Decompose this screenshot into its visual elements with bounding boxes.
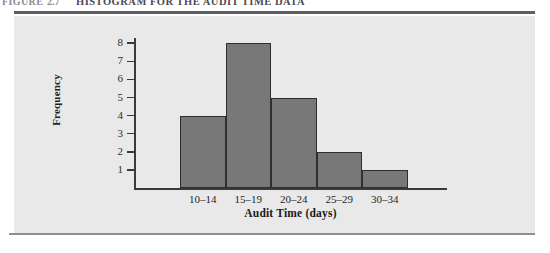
histogram-bars: 10–1415–1920–2425–2930–34 [14, 16, 535, 233]
histogram-bar [226, 43, 272, 188]
figure-panel: Frequency 87654321 10–1415–1920–2425–293… [14, 16, 535, 233]
figure-caption: Figure 2.7 Histogram for the Audit Time … [0, 0, 550, 10]
caption-divider-rule [14, 11, 535, 14]
histogram-bar [271, 98, 317, 189]
histogram-bar [362, 170, 408, 188]
bottom-divider-rule [9, 233, 535, 235]
histogram-bar [317, 152, 363, 188]
x-axis-title: Audit Time (days) [134, 207, 447, 219]
x-axis-tick-label: 30–34 [355, 193, 415, 205]
caption-title: Histogram for the Audit Time Data [76, 0, 305, 7]
histogram-bar [180, 116, 226, 188]
caption-number: 2.7 [47, 0, 60, 7]
caption-label: Figure [2, 0, 43, 7]
histogram-plot-area: Frequency 87654321 10–1415–1920–2425–293… [14, 16, 535, 233]
